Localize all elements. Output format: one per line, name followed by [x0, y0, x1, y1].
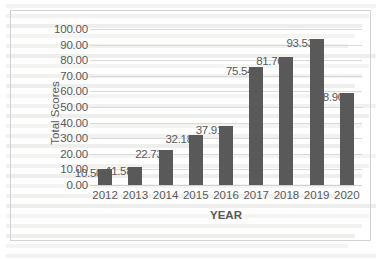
bar-slot: 81.76: [271, 29, 301, 185]
bar-slot: 22.73: [151, 29, 181, 185]
bar-slot: 75.54: [241, 29, 271, 185]
x-axis-tick-label: 2018: [271, 189, 301, 201]
x-axis-tick-labels: 201220132014201520162017201820192020: [90, 189, 362, 205]
bar-slot: 93.53: [302, 29, 332, 185]
y-axis-tick-label: 60.00: [60, 85, 88, 97]
y-axis-tick-label: 90.00: [60, 39, 88, 51]
chart-container: Total Scores 0.0010.0020.0030.0040.0050.…: [10, 10, 371, 241]
plot-area: 10.5011.5822.7332.1837.9175.5481.7693.53…: [90, 29, 362, 185]
y-axis-tick-label: 80.00: [60, 54, 88, 66]
bar-data-label: 11.58: [106, 165, 132, 177]
bar[interactable]: [279, 57, 293, 185]
x-axis-tick-label: 2015: [181, 189, 211, 201]
x-axis-tick-label: 2017: [241, 189, 271, 201]
bar[interactable]: [310, 39, 324, 185]
bar[interactable]: [249, 67, 263, 185]
bar-data-label: 32.18: [165, 133, 192, 145]
x-axis-tick-label: 2020: [332, 189, 362, 201]
x-axis-tick-label: 2013: [120, 189, 150, 201]
bar-data-label: 93.53: [286, 37, 313, 49]
y-axis-tick-label: 70.00: [60, 70, 88, 82]
y-axis-tick-label: 30.00: [60, 132, 88, 144]
bar-data-label: 75.54: [226, 65, 253, 77]
x-axis-tick-label: 2019: [302, 189, 332, 201]
bar-data-label: 37.91: [196, 124, 223, 136]
y-axis-tick-label: 20.00: [60, 148, 88, 160]
bar-slot: 37.91: [211, 29, 241, 185]
bar-data-label: 81.76: [256, 55, 283, 67]
bar-slot: 58.90: [332, 29, 362, 185]
bar-data-label: 22.73: [135, 148, 162, 160]
y-axis-tick-labels: 0.0010.0020.0030.0040.0050.0060.0070.008…: [33, 29, 88, 185]
x-axis-tick-label: 2016: [211, 189, 241, 201]
y-axis-tick-label: 0.00: [66, 179, 88, 191]
x-axis-tick-label: 2012: [90, 189, 120, 201]
bar-data-label: 58.90: [317, 91, 344, 103]
y-axis-tick-label: 40.00: [60, 117, 88, 129]
x-axis-tick-label: 2014: [151, 189, 181, 201]
bar-slot: 32.18: [181, 29, 211, 185]
gridline: [90, 185, 362, 186]
x-axis-title: YEAR: [90, 209, 362, 221]
bar[interactable]: [340, 93, 354, 185]
bar-slot: 10.50: [90, 29, 120, 185]
y-axis-tick-label: 100.00: [54, 23, 88, 35]
y-axis-tick-label: 50.00: [60, 101, 88, 113]
bar-slot: 11.58: [120, 29, 150, 185]
bar-data-label: 10.50: [75, 167, 102, 179]
